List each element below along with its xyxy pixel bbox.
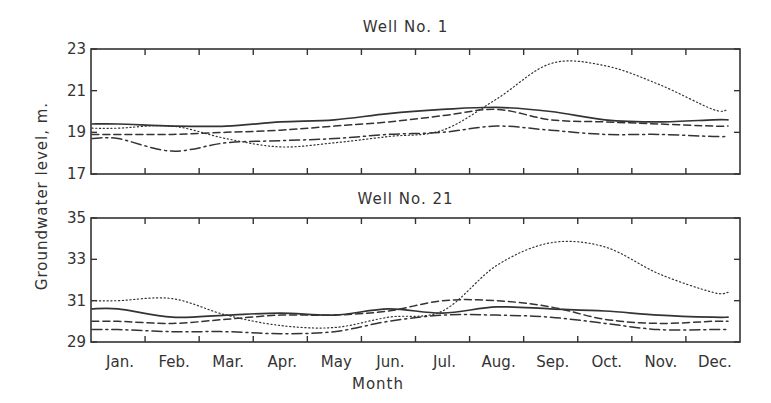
x-tick-label: Aug.: [482, 353, 516, 371]
panel-title: Well No. 1: [363, 18, 449, 36]
y-tick-label: 21: [67, 82, 86, 100]
series-line-dashed: [92, 300, 728, 324]
x-tick-label: May: [321, 353, 352, 371]
y-tick-label: 19: [67, 123, 86, 141]
y-tick-label: 31: [67, 292, 86, 310]
groundwater-chart: Groundwater level, m. Well No. 117192123…: [0, 0, 771, 403]
y-axis-label: Groundwater level, m.: [33, 102, 51, 290]
panel-1: Well No. 117192123: [67, 18, 740, 183]
series-line-dotted: [92, 241, 728, 328]
x-tick-label: Sep.: [536, 353, 569, 371]
x-tick-label: Feb.: [158, 353, 189, 371]
series-line-dash-dot: [92, 126, 728, 151]
y-tick-label: 17: [67, 165, 86, 183]
y-tick-label: 29: [67, 333, 86, 351]
panel-2: Well No. 2129313335Jan.Feb.Mar.Apr.MayJu…: [67, 190, 740, 371]
y-tick-label: 35: [67, 209, 86, 227]
x-tick-label: Mar.: [212, 353, 244, 371]
y-tick-label: 33: [67, 250, 86, 268]
x-tick-label: Nov.: [644, 353, 677, 371]
x-tick-label: Jun.: [375, 353, 404, 371]
x-tick-label: Apr.: [268, 353, 297, 371]
x-axis-label: Month: [352, 375, 404, 393]
x-tick-label: Dec.: [698, 353, 732, 371]
y-tick-label: 23: [67, 40, 86, 58]
x-tick-label: Jan.: [105, 353, 134, 371]
panel-title: Well No. 21: [357, 190, 453, 208]
x-tick-label: Jul.: [432, 353, 456, 371]
x-tick-label: Oct.: [591, 353, 622, 371]
